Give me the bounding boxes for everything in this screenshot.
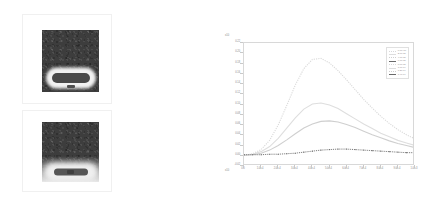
y-axis-exponent: x10 [225, 34, 229, 37]
y-tick-label: 0.00 [225, 153, 240, 156]
curve-3 [244, 121, 414, 155]
data-marker [252, 154, 253, 155]
x-tick-label: 8.0e-4 [376, 168, 383, 171]
x-tick-label: 0.0 [241, 168, 244, 171]
x-tick-label: 2.0e-4 [274, 168, 281, 171]
x-tick-mark [294, 165, 295, 168]
data-marker [338, 149, 339, 150]
legend-item: 1.4e-04 [389, 73, 406, 76]
y-tick-mark [240, 145, 243, 146]
chart-legend: 0.0e+002.0e-054.0e-056.0e-058.0e-051.0e-… [386, 47, 409, 79]
x-tick-mark [363, 165, 364, 168]
data-marker [329, 149, 330, 150]
y-tick-label: 0.14 [225, 82, 240, 85]
legend-swatch [389, 51, 396, 52]
feature-notch [67, 170, 74, 174]
legend-swatch [389, 54, 396, 55]
data-marker [397, 152, 398, 153]
data-marker [372, 150, 373, 151]
data-marker [389, 151, 390, 152]
data-marker [380, 151, 381, 152]
x-tick-mark [397, 165, 398, 168]
x-tick-label: 9.0e-4 [394, 168, 401, 171]
curve-2 [244, 103, 414, 155]
data-marker [295, 153, 296, 154]
bright-rounded-feature [43, 162, 99, 182]
figure-root: x10 x10 0.0e+002.0e-054.0e-056.0e-058.0e… [0, 0, 428, 205]
y-tick-mark [240, 52, 243, 53]
legend-swatch [389, 57, 396, 58]
y-tick-label: 0.10 [225, 102, 240, 105]
x-axis-exponent: x10 [225, 169, 229, 172]
feature-notch [67, 85, 75, 88]
data-marker [312, 151, 313, 152]
y-tick-label: 0.16 [225, 71, 240, 74]
x-tick-label: 6.0e-4 [342, 168, 349, 171]
y-tick-label: 0.18 [225, 61, 240, 64]
x-tick-mark [329, 165, 330, 168]
bright-stadium-feature [45, 67, 97, 89]
bottom-image-content [42, 122, 99, 182]
legend-label: 1.4e-04 [398, 74, 406, 76]
legend-swatch [389, 64, 396, 65]
data-marker [363, 150, 364, 151]
legend-swatch [389, 74, 396, 75]
x-tick-mark [277, 165, 278, 168]
data-marker [320, 150, 321, 151]
plot-area: 0.0e+002.0e-054.0e-056.0e-058.0e-051.0e-… [243, 42, 414, 165]
data-marker [278, 154, 279, 155]
y-tick-mark [240, 42, 243, 43]
x-tick-mark [346, 165, 347, 168]
legend-swatch [389, 68, 396, 69]
data-marker [355, 149, 356, 150]
data-marker [406, 152, 407, 153]
y-tick-mark [240, 73, 243, 74]
y-tick-mark [240, 114, 243, 115]
data-marker [303, 152, 304, 153]
y-tick-mark [240, 134, 243, 135]
data-marker [261, 154, 262, 155]
data-marker [286, 153, 287, 154]
x-tick-mark [414, 165, 415, 168]
x-tick-label: 5.0e-4 [325, 168, 332, 171]
y-tick-mark [240, 104, 243, 105]
y-tick-mark [240, 63, 243, 64]
legend-swatch [389, 61, 396, 62]
x-tick-label: 7.0e-4 [359, 168, 366, 171]
x-tick-label: 1.0e-4 [257, 168, 264, 171]
y-tick-label: 0.08 [225, 112, 240, 115]
data-marker [269, 154, 270, 155]
y-tick-label: 0.12 [225, 92, 240, 95]
y-tick-label: 0.06 [225, 123, 240, 126]
x-tick-mark [260, 165, 261, 168]
legend-swatch [389, 71, 396, 72]
y-tick-label: 0.04 [225, 133, 240, 136]
data-marker [346, 149, 347, 150]
y-tick-mark [240, 155, 243, 156]
y-tick-mark [240, 83, 243, 84]
feature-core [52, 73, 90, 83]
x-tick-label: 4.0e-4 [308, 168, 315, 171]
y-tick-label: 0.22 [225, 41, 240, 44]
y-tick-label: 0.02 [225, 143, 240, 146]
y-tick-mark [240, 124, 243, 125]
x-tick-label: 3.0e-4 [291, 168, 298, 171]
x-tick-mark [380, 165, 381, 168]
x-tick-label: 1.0e-3 [411, 168, 418, 171]
line-chart: x10 x10 0.0e+002.0e-054.0e-056.0e-058.0e… [225, 28, 423, 188]
x-tick-mark [311, 165, 312, 168]
x-tick-mark [243, 165, 244, 168]
y-tick-label: -0.02 [225, 164, 240, 167]
top-image-content [42, 30, 99, 92]
y-tick-label: 0.20 [225, 51, 240, 54]
y-tick-mark [240, 93, 243, 94]
